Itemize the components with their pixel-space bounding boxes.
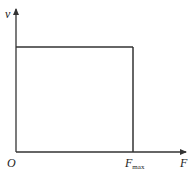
origin-label: O <box>7 157 16 169</box>
x-axis-label: F <box>180 157 187 169</box>
diagram-canvas <box>0 0 193 174</box>
y-axis-label: v <box>5 8 10 20</box>
fmax-label: Fmax <box>125 157 144 171</box>
fmax-label-sub: max <box>132 163 144 171</box>
